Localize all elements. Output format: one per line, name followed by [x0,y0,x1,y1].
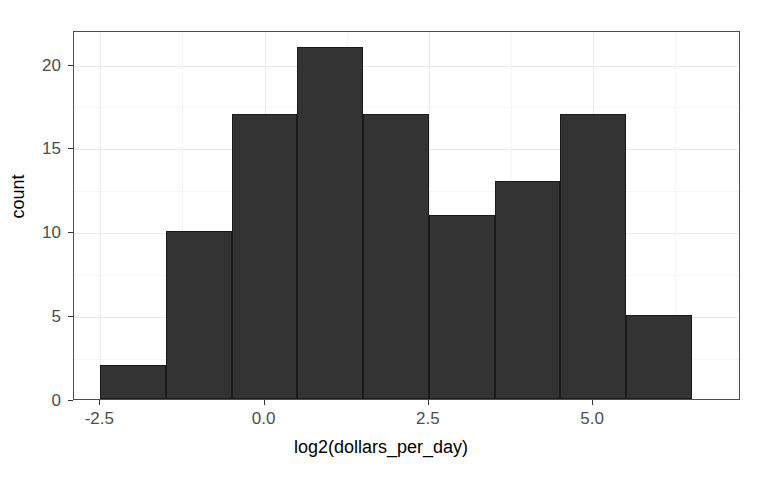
minor-gridline-horizontal [74,107,739,108]
y-tick-mark [68,65,73,66]
histogram-bar [297,47,363,399]
histogram-bar [166,231,232,399]
histogram-bar [429,215,495,400]
y-axis-title: count [8,117,29,277]
histogram-bar [363,114,429,399]
x-tick-mark [592,400,593,405]
plot-panel [73,31,740,400]
x-tick-label: -2.5 [59,410,139,427]
x-axis-title: log2(dollars_per_day) [0,437,762,458]
y-tick-label: 5 [11,308,61,325]
x-tick-mark [264,400,265,405]
x-tick-label: 2.5 [388,410,468,427]
histogram-bar [626,315,692,399]
x-tick-label: 5.0 [552,410,632,427]
y-tick-label: 0 [11,392,61,409]
y-tick-mark [68,400,73,401]
histogram-bar [495,181,561,399]
x-tick-label: 0.0 [224,410,304,427]
histogram-bar [232,114,298,399]
histogram-figure: 05101520 -2.50.02.55.0 log2(dollars_per_… [0,0,762,479]
histogram-bar [100,365,166,399]
y-tick-mark [68,232,73,233]
histogram-bar [560,114,626,399]
y-tick-label: 20 [11,57,61,74]
x-tick-mark [99,400,100,405]
y-tick-mark [68,316,73,317]
y-tick-mark [68,148,73,149]
major-gridline-vertical [100,32,101,399]
major-gridline-horizontal [74,66,739,67]
x-tick-mark [428,400,429,405]
